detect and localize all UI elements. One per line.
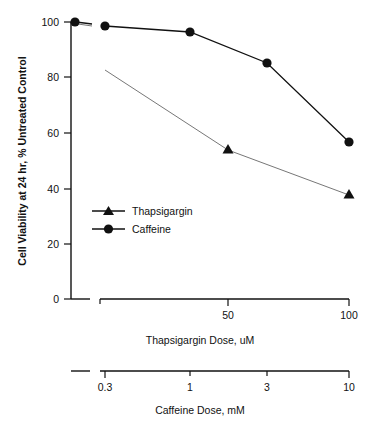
data-point-caffeine-1 [185, 27, 194, 36]
legend-item-caffeine: Caffeine [92, 223, 171, 235]
series-line-caffeine [105, 26, 349, 142]
data-point-control [70, 17, 79, 26]
legend-label-caffeine: Caffeine [132, 223, 171, 235]
data-point-thapsigargin-50 [223, 144, 234, 154]
y-tick-label-80: 80 [47, 71, 59, 83]
y-tick-label-0: 0 [53, 293, 59, 305]
legend-item-thapsigargin: Thapsigargin [92, 205, 193, 217]
x-tick-label-caffeine-3: 3 [264, 381, 270, 393]
legend: Thapsigargin Caffeine [92, 205, 193, 235]
series-caffeine [100, 21, 353, 146]
caffeine-axis: 0.3 1 3 10 Caffeine Dose, mM [71, 371, 355, 416]
y-axis: 100 80 60 40 20 0 Cell Viability at 24 h… [16, 16, 71, 305]
data-point-caffeine-0p3 [100, 21, 109, 30]
y-tick-label-100: 100 [41, 16, 59, 28]
x-tick-label-thapsigargin-100: 100 [340, 309, 358, 321]
x-axis-title-thapsigargin: Thapsigargin Dose, uM [146, 334, 255, 346]
control-point-group [70, 17, 92, 26]
thapsigargin-axis: 50 100 Thapsigargin Dose, uM [71, 299, 358, 346]
y-axis-title: Cell Viability at 24 hr, % Untreated Con… [16, 56, 28, 265]
circle-marker-icon [104, 224, 113, 233]
x-tick-label-thapsigargin-50: 50 [222, 309, 234, 321]
y-tick-label-60: 60 [47, 127, 59, 139]
data-point-caffeine-10 [344, 137, 353, 146]
x-tick-label-caffeine-0p3: 0.3 [98, 381, 113, 393]
x-tick-label-caffeine-1: 1 [187, 381, 193, 393]
series-line-thapsigargin [105, 70, 349, 195]
chart-figure: 100 80 60 40 20 0 Cell Viability at 24 h… [0, 0, 369, 422]
x-axis-title-caffeine: Caffeine Dose, mM [155, 404, 245, 416]
legend-label-thapsigargin: Thapsigargin [132, 205, 193, 217]
data-point-caffeine-3 [262, 58, 271, 67]
chart-svg: 100 80 60 40 20 0 Cell Viability at 24 h… [0, 0, 369, 422]
y-tick-label-40: 40 [47, 183, 59, 195]
series-thapsigargin [105, 70, 355, 199]
x-tick-label-caffeine-10: 10 [343, 381, 355, 393]
y-tick-label-20: 20 [47, 238, 59, 250]
